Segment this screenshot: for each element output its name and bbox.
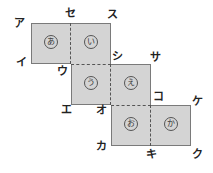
- fold-line: [150, 105, 151, 146]
- vertex-label-ke: ケ: [192, 96, 203, 108]
- fold-line: [111, 105, 151, 106]
- outline-edge: [111, 105, 112, 146]
- outline-edge: [190, 105, 191, 146]
- vertex-label-ku: ク: [192, 149, 203, 161]
- outline-edge: [31, 63, 71, 64]
- vertex-label-su: ス: [107, 9, 118, 21]
- outline-edge: [71, 64, 72, 105]
- outline-edge: [150, 64, 151, 105]
- vertex-label-i: イ: [16, 57, 27, 69]
- vertex-label-sa: サ: [150, 52, 161, 64]
- outline-edge: [31, 23, 32, 64]
- vertex-label-ki: キ: [146, 149, 157, 161]
- vertex-label-ka: カ: [96, 141, 107, 153]
- outline-edge: [150, 105, 191, 106]
- outline-edge: [31, 23, 111, 24]
- fold-line: [110, 64, 111, 105]
- outline-edge: [111, 145, 191, 146]
- outline-edge: [110, 23, 111, 64]
- vertex-label-o: オ: [96, 105, 107, 117]
- face-label-ka: か: [164, 117, 178, 131]
- face-label-a: あ: [44, 35, 58, 49]
- face-label-o: お: [124, 117, 138, 131]
- vertex-label-ko: コ: [153, 91, 164, 103]
- face-label-i: い: [84, 35, 98, 49]
- vertex-label-u: ウ: [57, 66, 68, 78]
- face-label-e: え: [124, 76, 138, 90]
- fold-line: [70, 23, 71, 64]
- vertex-label-shi: シ: [112, 51, 123, 63]
- vertex-label-e: エ: [61, 104, 72, 116]
- fold-line: [71, 64, 111, 65]
- vertex-label-a: ア: [14, 18, 25, 30]
- vertex-label-se: セ: [65, 8, 76, 20]
- face-label-u: う: [84, 76, 98, 90]
- outline-edge: [110, 64, 151, 65]
